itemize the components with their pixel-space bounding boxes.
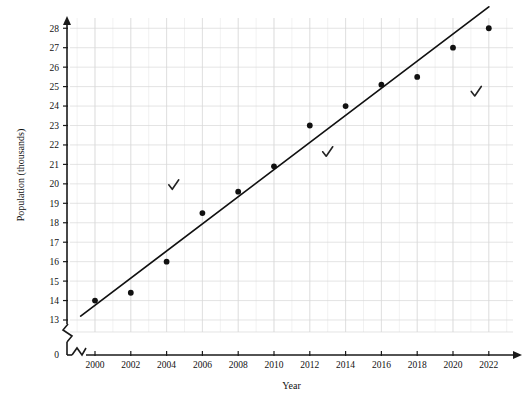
x-tick-label: 2004 [157, 360, 176, 370]
check-mark-icon [169, 180, 179, 190]
y-tick-label: 28 [50, 24, 60, 34]
x-axis-ticks: 2000200220042006200820102012201420162018… [86, 351, 499, 370]
check-mark-icon [471, 86, 481, 96]
population-scatter-chart: 131415161718192021222324252627280 200020… [0, 0, 531, 410]
data-point [128, 290, 134, 296]
y-tick-label: 14 [50, 296, 60, 306]
x-tick-label: 2020 [444, 360, 463, 370]
y-tick-label: 26 [50, 63, 60, 73]
y-origin-label: 0 [54, 350, 59, 360]
y-tick-label: 27 [50, 43, 60, 53]
data-point [379, 82, 385, 88]
y-tick-label: 17 [50, 238, 60, 248]
y-tick-label: 15 [50, 277, 60, 287]
chart-canvas: 131415161718192021222324252627280 200020… [0, 0, 531, 410]
x-tick-label: 2012 [300, 360, 319, 370]
y-axis-label: Population (thousands) [15, 129, 27, 222]
x-tick-label: 2010 [265, 360, 284, 370]
y-tick-label: 24 [50, 101, 60, 111]
line-of-best-fit [81, 7, 489, 316]
x-tick-label: 2014 [336, 360, 355, 370]
y-tick-label: 21 [50, 160, 60, 170]
data-point [414, 74, 420, 80]
x-tick-label: 2022 [479, 360, 498, 370]
y-tick-label: 18 [50, 218, 60, 228]
x-axis-label: Year [282, 380, 301, 391]
y-tick-label: 19 [50, 199, 60, 209]
data-point [486, 25, 492, 31]
data-point [271, 163, 277, 169]
x-tick-label: 2002 [121, 360, 140, 370]
grid-major-lines [70, 18, 513, 332]
y-axis-ticks: 131415161718192021222324252627280 [50, 24, 69, 361]
data-point [92, 298, 98, 304]
data-point [200, 210, 206, 216]
trend-line [81, 7, 489, 316]
y-tick-label: 13 [50, 315, 60, 325]
data-point [235, 189, 241, 195]
y-tick-label: 22 [50, 140, 60, 150]
data-point [450, 45, 456, 51]
x-tick-label: 2008 [229, 360, 248, 370]
x-tick-label: 2016 [372, 360, 391, 370]
y-tick-label: 16 [50, 257, 60, 267]
data-point [307, 123, 313, 129]
y-tick-label: 23 [50, 121, 60, 131]
x-tick-label: 2000 [86, 360, 105, 370]
grid-minor-lines [77, 18, 507, 332]
x-tick-label: 2006 [193, 360, 212, 370]
y-tick-label: 20 [50, 179, 60, 189]
annotations [169, 86, 482, 189]
data-point [164, 259, 170, 265]
x-tick-label: 2018 [408, 360, 427, 370]
data-point [343, 103, 349, 109]
y-tick-label: 25 [50, 82, 60, 92]
